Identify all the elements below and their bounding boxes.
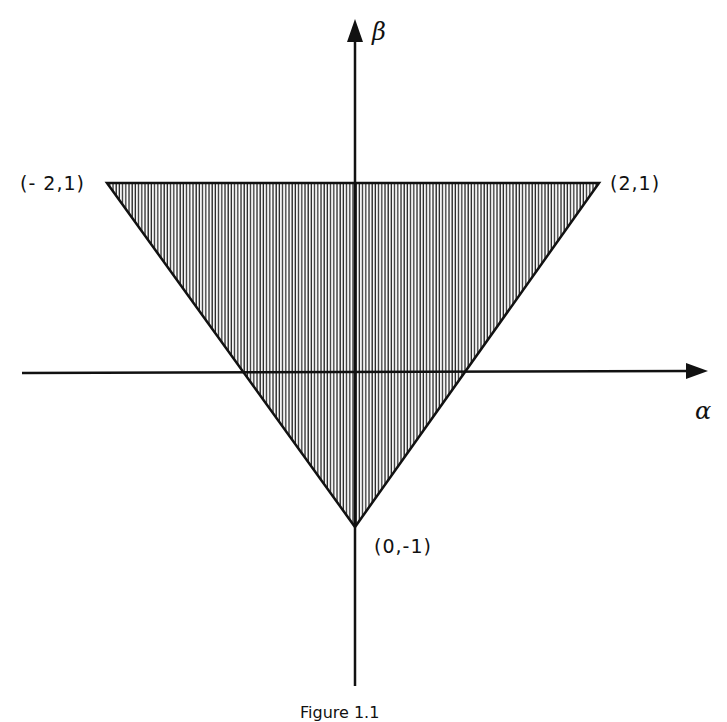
- feasible-region-triangle: [107, 183, 599, 527]
- figure-caption: Figure 1.1: [300, 703, 379, 722]
- vertex-label-top-right: (2,1): [610, 172, 660, 194]
- beta-axis-label: β: [372, 18, 386, 46]
- vertex-label-top-left: (- 2,1): [20, 172, 85, 194]
- beta-axis-arrow-icon: [347, 19, 363, 42]
- alpha-axis-label: α: [695, 397, 711, 425]
- alpha-axis-arrow-icon: [686, 363, 708, 379]
- vertex-label-bottom: (0,-1): [374, 535, 432, 557]
